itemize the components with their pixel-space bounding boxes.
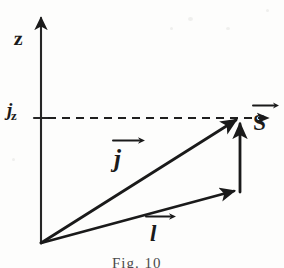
diagram-canvas [0, 0, 284, 268]
vector-l-glyph: l [145, 221, 177, 247]
scan-speck [12, 158, 15, 161]
projection-label-jz: jz [7, 100, 17, 122]
scan-speck [266, 9, 269, 12]
axis-label-z: z [13, 28, 23, 48]
vector-label-l: l [145, 212, 177, 247]
vector-s-glyph: S [252, 110, 280, 136]
jz-subscript-glyph: z [11, 109, 18, 122]
l-vector-arrow [41, 191, 234, 243]
vector-label-j: j [112, 136, 146, 173]
vector-overarrow-icon [252, 101, 280, 110]
scan-speck [170, 27, 173, 30]
vector-overarrow-icon [145, 212, 177, 221]
scan-speck [226, 27, 230, 30]
vector-label-s: S [252, 101, 280, 136]
vector-overarrow-icon [112, 136, 146, 145]
figure-caption: Fig. 10 [112, 255, 162, 268]
vector-j-glyph: j [112, 145, 146, 173]
vector-diagram-figure: z jz j S l Fig. 10 [0, 0, 284, 268]
scan-speck [188, 17, 193, 21]
